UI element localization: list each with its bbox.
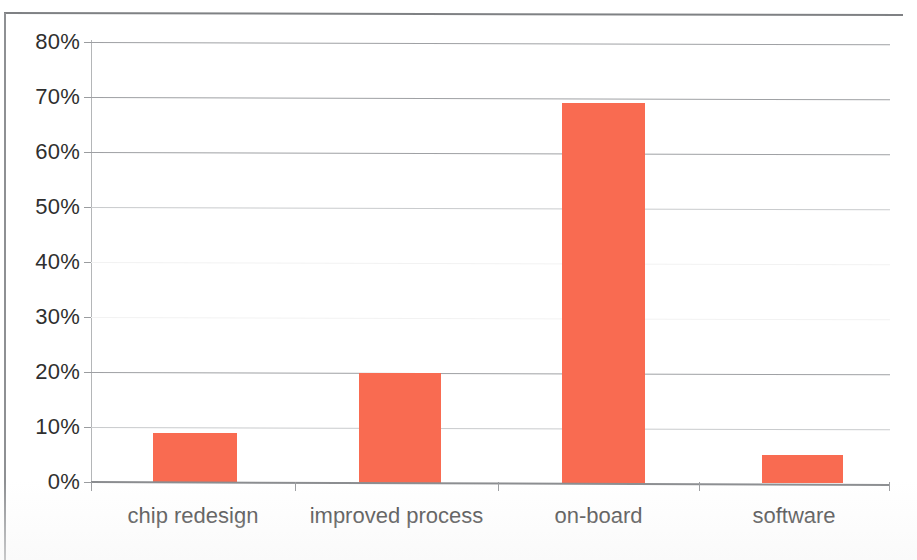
x-axis-label-improved-process: improved process	[295, 503, 498, 529]
x-axis-tick-3	[699, 482, 700, 491]
x-axis-tick-0	[91, 482, 92, 491]
y-axis-label-60: 60%	[10, 141, 80, 163]
gridline-40	[91, 262, 890, 265]
y-axis-label-0: 0%	[10, 471, 80, 493]
x-axis-tick-1	[295, 482, 296, 491]
gridline-80	[91, 42, 890, 45]
bar-software	[762, 455, 843, 483]
x-axis-label-software: software	[699, 503, 889, 529]
y-axis-label-50: 50%	[10, 196, 80, 218]
y-axis-tick-10	[84, 427, 91, 428]
plot-area	[91, 42, 890, 483]
y-axis-tick-70	[84, 97, 91, 98]
y-axis-tick-0	[84, 482, 91, 483]
y-axis-tick-20	[84, 372, 91, 373]
chart-frame-top-border	[4, 12, 903, 16]
y-axis-label-20: 20%	[10, 361, 80, 383]
gridline-10	[91, 427, 890, 430]
y-axis-tick-80	[84, 42, 91, 43]
y-axis-label-10: 10%	[10, 416, 80, 438]
gridline-20	[91, 372, 890, 375]
gridline-30	[91, 317, 890, 320]
y-axis-label-40: 40%	[10, 251, 80, 273]
bar-on-board	[562, 103, 645, 483]
bar-chart-figure: 80% 70% 60% 50% 40% 30% 20% 10% 0%	[0, 0, 917, 560]
y-axis-label-group: 80% 70% 60% 50% 40% 30% 20% 10% 0%	[0, 0, 80, 560]
y-axis-label-70: 70%	[10, 86, 80, 108]
y-axis-tick-50	[84, 207, 91, 208]
gridline-50	[91, 207, 890, 210]
x-axis-label-chip-redesign: chip redesign	[91, 503, 295, 529]
y-axis-tick-60	[84, 152, 91, 153]
gridline-60	[91, 152, 890, 155]
x-axis-label-on-board: on-board	[498, 503, 699, 529]
y-axis-tick-30	[84, 317, 91, 318]
gridline-70	[91, 97, 890, 100]
bar-improved-process	[359, 373, 441, 483]
y-axis-label-30: 30%	[10, 306, 80, 328]
y-axis-tick-40	[84, 262, 91, 263]
y-axis-label-80: 80%	[10, 31, 80, 53]
x-axis-tick-4	[889, 482, 890, 491]
bar-chip-redesign	[153, 433, 237, 483]
x-axis-tick-2	[498, 482, 499, 491]
